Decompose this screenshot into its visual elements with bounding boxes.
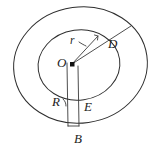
label-inner-radius: r [70, 35, 74, 47]
left-vertical-line [67, 63, 68, 126]
label-base: B [74, 132, 82, 145]
right-vertical-line [78, 66, 79, 126]
radius-d-line [72, 26, 131, 64]
radius-r-leader [79, 42, 86, 46]
geometry-figure: O r D R E B [0, 0, 161, 154]
label-left-vertical: R [52, 95, 60, 108]
label-center: O [57, 56, 66, 69]
label-right-vertical: E [84, 100, 92, 113]
label-outer-radius: D [108, 37, 117, 50]
label-r-leader [63, 99, 66, 106]
center-point [70, 62, 75, 67]
outer-ellipse [6, 0, 155, 132]
